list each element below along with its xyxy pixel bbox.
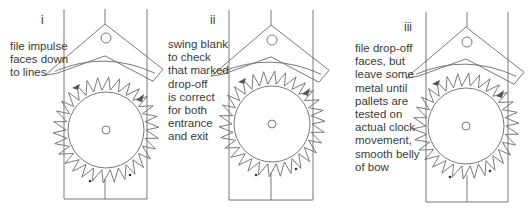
escape-wheel-rim (68, 92, 144, 168)
exit-pallet-face (302, 88, 310, 96)
escapement-drawings (0, 0, 528, 210)
panel-iii-caption: file drop-off faces, but leave some meta… (355, 42, 420, 174)
pallet-pivot-hole (101, 33, 111, 43)
pallet-pivot-hole (462, 37, 472, 47)
panel-ii-numeral: ii (210, 13, 215, 27)
entrance-pallet-face (432, 80, 440, 86)
frame-outline (229, 10, 313, 200)
panel-iii-numeral: iii (404, 20, 412, 34)
drop-off-marker-left (89, 180, 92, 183)
escape-wheel-arbor (268, 120, 276, 128)
panel-i-numeral: i (41, 13, 44, 27)
pallet-pivot-hole (267, 35, 277, 45)
escape-wheel-teeth (413, 73, 519, 179)
drop-off-marker-right (129, 174, 132, 177)
pallet-belly-arc (221, 62, 321, 74)
escape-wheel-rim (234, 86, 310, 162)
pallet-belly-arc (416, 64, 516, 76)
exit-pallet-face (496, 90, 504, 98)
drop-off-marker-left (449, 176, 452, 179)
escape-wheel-arbor (102, 126, 110, 134)
escape-wheel-teeth (219, 71, 325, 177)
exit-pallet-face (136, 94, 144, 102)
entrance-pallet-face (72, 84, 80, 90)
escape-wheel-arbor (462, 122, 470, 130)
pallet-diamond (406, 27, 524, 84)
pallet-belly-arc (55, 61, 155, 73)
drop-off-marker-right (295, 168, 298, 171)
panel-i-drawing (45, 9, 163, 199)
entrance-pallet-face (238, 78, 246, 84)
drop-off-marker-right (489, 170, 492, 173)
escape-wheel-rim (428, 88, 504, 164)
escape-wheel-teeth (53, 77, 159, 183)
escapement-diagram: i file impulse faces down to lines ii sw… (0, 0, 528, 210)
drop-off-marker-left (255, 174, 258, 177)
panel-ii-caption: swing blank to check that marked drop-of… (168, 38, 229, 144)
panel-iii-drawing (406, 12, 524, 202)
frame-outline (426, 12, 508, 202)
panel-i-caption: file impulse faces down to lines (10, 40, 68, 80)
